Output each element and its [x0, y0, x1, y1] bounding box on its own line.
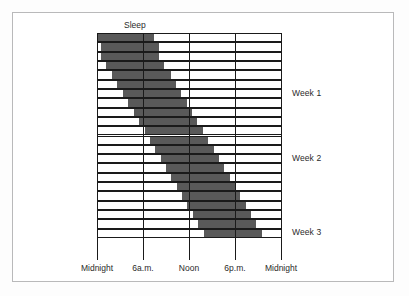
- x-axis-tick: [281, 238, 282, 260]
- x-axis-tick: [189, 238, 190, 260]
- sleep-bar: [123, 90, 181, 97]
- sleep-bar: [112, 71, 170, 78]
- sleep-bar: [101, 53, 159, 60]
- x-axis-tick-label: Noon: [179, 263, 199, 273]
- sleep-series-label: Sleep: [122, 20, 148, 30]
- sleep-bar: [187, 202, 245, 209]
- sleep-bar: [97, 34, 154, 41]
- time-gridline: [281, 33, 282, 238]
- actogram-figure: Sleep Midnight6a.m.Noon6p.m.MidnightWeek…: [0, 0, 409, 296]
- time-gridline: [97, 33, 98, 238]
- actogram-plot-area: [97, 33, 281, 238]
- sleep-bar: [193, 211, 251, 218]
- week-label: Week 1: [292, 88, 321, 98]
- time-gridline: [189, 33, 190, 238]
- x-axis-tick-label: Midnight: [81, 263, 113, 273]
- x-axis-tick: [143, 238, 144, 260]
- x-axis-tick: [97, 238, 98, 260]
- sleep-bar: [117, 81, 176, 88]
- sleep-bar: [204, 230, 262, 237]
- sleep-bar: [101, 43, 159, 50]
- sleep-bar: [171, 174, 229, 181]
- sleep-bar: [150, 137, 208, 144]
- sleep-bar: [177, 183, 235, 190]
- sleep-bar: [182, 192, 240, 199]
- x-axis-tick: [235, 238, 236, 260]
- x-axis-tick-label: Midnight: [265, 263, 297, 273]
- sleep-bar: [166, 164, 224, 171]
- week-label: Week 2: [292, 153, 321, 163]
- sleep-bar: [128, 99, 186, 106]
- x-axis-tick-label: 6p.m.: [224, 263, 245, 273]
- sleep-bar: [106, 62, 164, 69]
- x-axis-tick-label: 6a.m.: [132, 263, 153, 273]
- sleep-bar: [145, 127, 203, 134]
- sleep-bar: [198, 220, 256, 227]
- time-gridline: [143, 33, 144, 238]
- week-label: Week 3: [292, 227, 321, 237]
- time-gridline: [235, 33, 236, 238]
- sleep-bar: [155, 146, 213, 153]
